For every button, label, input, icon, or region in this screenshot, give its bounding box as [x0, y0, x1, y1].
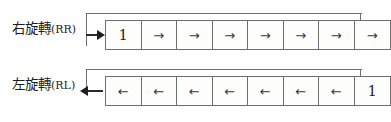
rotate-right-label-paren: (RR) [51, 23, 76, 36]
rl-cell-7[interactable]: 1 [355, 77, 391, 105]
rl-loop-top-horizontal [86, 69, 362, 70]
rl-cell-2[interactable]: ← [177, 77, 213, 105]
rl-cell-3[interactable]: ← [213, 77, 249, 105]
rl-output-arrowhead-icon [80, 86, 88, 96]
rr-cell-3[interactable]: → [213, 21, 249, 49]
rl-output-wire [87, 90, 103, 92]
rl-cell-1[interactable]: ← [142, 77, 178, 105]
rr-cell-4[interactable]: → [248, 21, 284, 49]
rl-cell-6[interactable]: ← [319, 77, 355, 105]
rr-cell-6[interactable]: → [319, 21, 355, 49]
rotate-right-diagram: 右旋轉(RR) 1 → → → → → → → [0, 4, 385, 60]
rl-cell-4[interactable]: ← [248, 77, 284, 105]
rotate-right-cells: 1 → → → → → → → [105, 20, 391, 50]
rotate-left-cells: ← ← ← ← ← ← ← 1 [105, 76, 391, 106]
rr-cell-7[interactable]: → [355, 21, 391, 49]
rr-input-arrowhead-icon [97, 30, 105, 40]
rotate-left-diagram: 左旋轉(RL) ← ← ← ← ← ← ← 1 [0, 60, 385, 116]
rr-loop-left-riser [86, 13, 87, 35]
rotate-right-label: 右旋轉(RR) [12, 22, 76, 36]
rotate-right-label-cjk: 右旋轉 [12, 20, 51, 36]
rr-loop-top-horizontal [86, 13, 362, 14]
rl-cell-5[interactable]: ← [284, 77, 320, 105]
rr-cell-0[interactable]: 1 [106, 21, 142, 49]
rr-cell-5[interactable]: → [284, 21, 320, 49]
rr-cell-1[interactable]: → [142, 21, 178, 49]
rl-cell-0[interactable]: ← [106, 77, 142, 105]
rotate-left-label: 左旋轉(RL) [12, 78, 75, 92]
rotate-left-label-paren: (RL) [51, 79, 75, 92]
rr-cell-2[interactable]: → [177, 21, 213, 49]
rotate-left-label-cjk: 左旋轉 [12, 76, 51, 92]
